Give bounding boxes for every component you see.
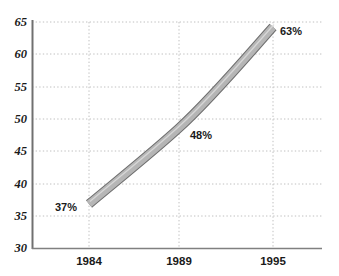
y-tick-label-30: 30 bbox=[3, 242, 27, 254]
y-tick-label-55: 55 bbox=[3, 81, 27, 93]
y-tick-label-65: 65 bbox=[3, 16, 27, 28]
y-tick-label-40: 40 bbox=[3, 178, 27, 190]
x-tick-label-1984: 1984 bbox=[66, 255, 112, 267]
data-label-1995: 63% bbox=[280, 25, 302, 37]
y-tick-label-60: 60 bbox=[3, 48, 27, 60]
horizontal-gridlines bbox=[32, 22, 322, 216]
x-tick-label-1995: 1995 bbox=[250, 255, 296, 267]
y-tick-label-45: 45 bbox=[3, 145, 27, 157]
data-label-1989: 48% bbox=[190, 129, 212, 141]
x-tick-label-1989: 1989 bbox=[156, 255, 202, 267]
data-label-1984: 37% bbox=[55, 201, 77, 213]
y-tick-label-50: 50 bbox=[3, 113, 27, 125]
y-tick-label-35: 35 bbox=[3, 210, 27, 222]
chart-canvas bbox=[0, 0, 339, 276]
data-series-line bbox=[89, 25, 274, 205]
line-chart: 65 60 55 50 45 40 35 30 1984 1989 1995 3… bbox=[0, 0, 339, 276]
